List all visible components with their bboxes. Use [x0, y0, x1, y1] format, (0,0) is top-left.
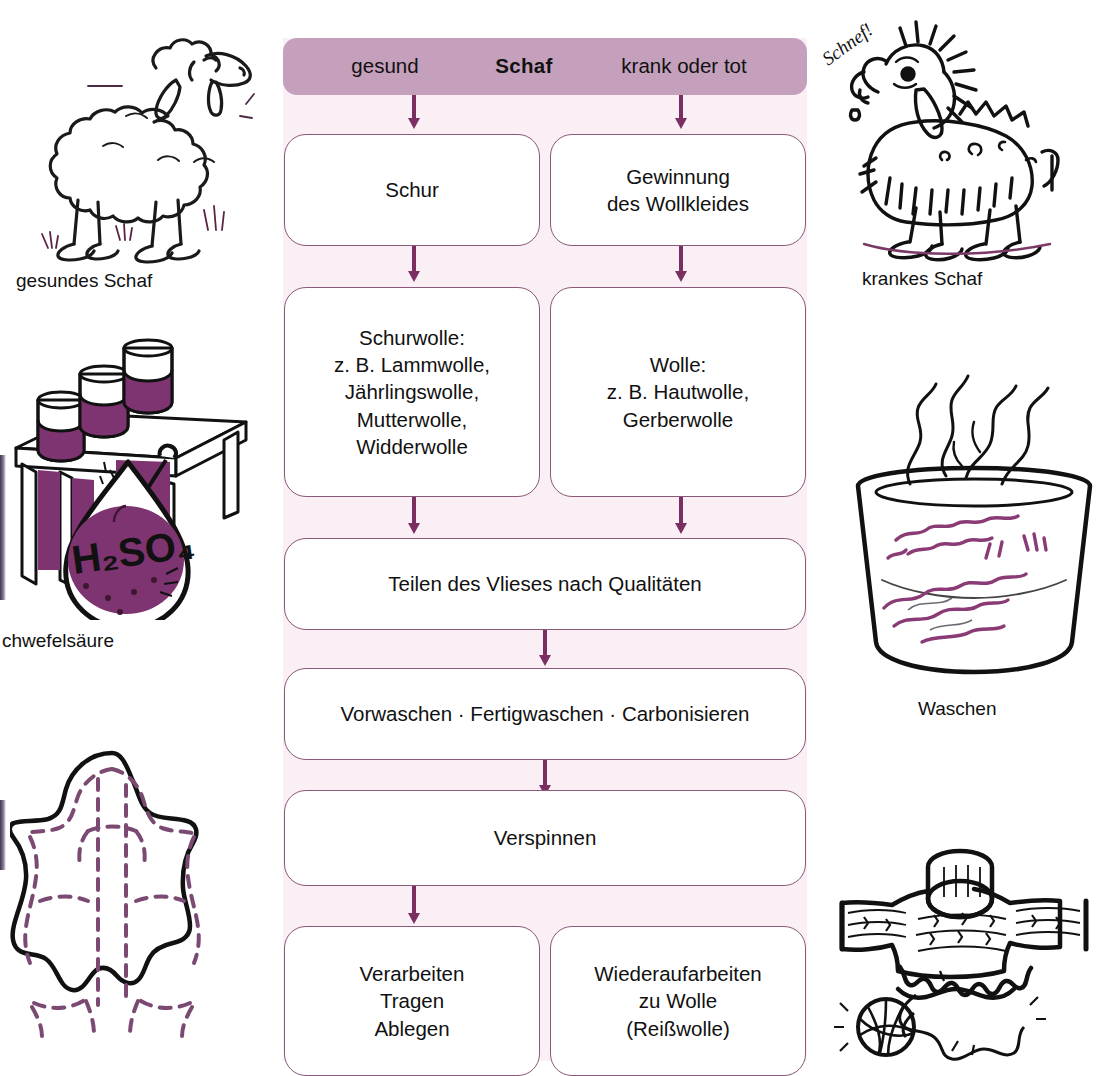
healthy-sheep-caption: gesundes Schaf: [16, 270, 152, 292]
arrow-schur-to-schurwolle: [408, 246, 420, 282]
test-tube-rack-and-flask-icon: H₂SO₄: [8, 330, 258, 620]
node-wiederaufarbeiten-text: Wiederaufarbeitenzu Wolle(Reißwolle): [594, 960, 762, 1042]
node-waschen: Vorwaschen · Fertigwaschen · Carbonisier…: [284, 668, 806, 760]
node-verspinnen: Verspinnen: [284, 790, 806, 886]
node-schur: Schur: [284, 134, 540, 246]
arrow-header-to-schur: [408, 95, 420, 129]
node-teilen-text: Teilen des Vlieses nach Qualitäten: [388, 570, 701, 597]
hide-illustration: [10, 745, 235, 1055]
node-schur-text: Schur: [385, 176, 439, 203]
steaming-bowl-of-wool-icon: [848, 358, 1100, 688]
node-verarbeiten: VerarbeitenTragenAblegen: [284, 926, 540, 1076]
sulfuric-acid-caption: chwefelsäure: [2, 630, 114, 652]
sulfuric-acid-illustration: H₂SO₄: [8, 330, 258, 620]
node-verspinnen-text: Verspinnen: [494, 824, 597, 851]
sweater-illustration: [834, 845, 1110, 1061]
washing-caption: Waschen: [918, 698, 997, 720]
sick-sheep-icon: Schnef!: [820, 18, 1095, 266]
node-gewinnung-text: Gewinnungdes Wollkleides: [607, 163, 749, 218]
flowchart-header: gesund Schaf krank oder tot: [283, 38, 807, 95]
arrow-verspinnen-to-verarbeiten: [408, 886, 420, 924]
node-verarbeiten-text: VerarbeitenTragenAblegen: [360, 960, 465, 1042]
unravelling-sweater-and-yarn-ball-icon: [834, 845, 1110, 1061]
node-wolle-text: Wolle:z. B. Hautwolle,Gerberwolle: [607, 351, 749, 433]
arrow-header-to-gewinnung: [675, 95, 687, 129]
node-wiederaufarbeiten: Wiederaufarbeitenzu Wolle(Reißwolle): [550, 926, 806, 1076]
header-label-healthy: gesund: [301, 56, 469, 77]
arrow-gewinnung-to-wolle: [675, 246, 687, 282]
node-gewinnung: Gewinnungdes Wollkleides: [550, 134, 806, 246]
node-schurwolle-text: Schurwolle:z. B. Lammwolle,Jährlingswoll…: [334, 324, 490, 460]
healthy-sheep-illustration: [8, 20, 270, 265]
sick-sheep-caption: krankes Schaf: [862, 268, 982, 290]
healthy-sheep-icon: [8, 20, 270, 265]
page-bleed-strip-top: [0, 455, 6, 600]
node-schurwolle: Schurwolle:z. B. Lammwolle,Jährlingswoll…: [284, 287, 540, 497]
node-teilen: Teilen des Vlieses nach Qualitäten: [284, 538, 806, 630]
washing-illustration: [848, 358, 1100, 688]
arrow-schurwolle-to-teilen: [408, 497, 420, 534]
node-wolle: Wolle:z. B. Hautwolle,Gerberwolle: [550, 287, 806, 497]
header-label-sheep: Schaf: [469, 56, 579, 77]
arrow-teilen-to-waschen: [539, 630, 551, 666]
arrow-wolle-to-teilen: [675, 497, 687, 534]
node-waschen-text: Vorwaschen · Fertigwaschen · Carbonisier…: [340, 700, 749, 727]
wool-process-flowchart: gesund Schaf krank oder tot Schur Gewinn…: [283, 38, 807, 1061]
sick-sheep-illustration: Schnef!: [820, 18, 1095, 266]
animal-hide-cutting-pattern-icon: [10, 745, 235, 1055]
header-label-sick: krank oder tot: [579, 56, 789, 77]
page-bleed-strip-bottom: [0, 800, 6, 870]
